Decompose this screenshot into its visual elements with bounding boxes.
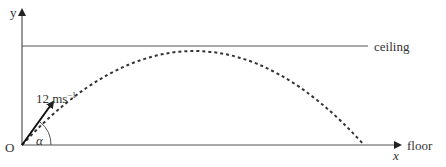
floor-label: floor	[407, 139, 432, 152]
velocity-unit-exponent: −1	[67, 91, 76, 100]
projectile-diagram	[0, 0, 446, 167]
angle-label: α	[36, 134, 43, 147]
y-axis-label: y	[10, 6, 17, 19]
velocity-label: 12 ms−1	[36, 92, 76, 105]
x-axis-label: x	[393, 149, 399, 162]
ceiling-label: ceiling	[374, 40, 409, 53]
velocity-magnitude: 12	[36, 91, 49, 106]
velocity-unit: ms	[52, 91, 67, 106]
origin-label: O	[5, 141, 14, 154]
